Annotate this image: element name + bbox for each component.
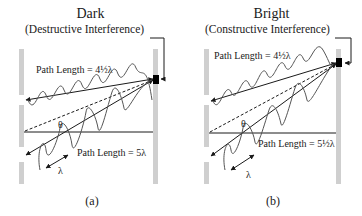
- panel-subtitle: (Destructive Interference): [25, 22, 144, 36]
- panel-dark-destructive: Dark (Destructive Interference) Path Len…: [0, 0, 181, 216]
- panel-title: Dark: [0, 6, 181, 22]
- angle-theta-label: θ: [58, 119, 63, 131]
- detector-point: [336, 58, 342, 67]
- panel-title: Bright: [181, 6, 362, 22]
- screen: [336, 49, 341, 184]
- panel-caption: (b): [253, 194, 293, 209]
- top-path-length-label: Path Length = 4½λ: [214, 50, 291, 62]
- bottom-path-length-label: Path Length = 5λ: [77, 147, 146, 159]
- wavelength-label: λ: [246, 169, 251, 181]
- barrier-middle-segment: [19, 105, 24, 147]
- wavelength-arrow: [46, 155, 68, 168]
- screen: [153, 49, 158, 184]
- barrier-bottom-segment: [204, 162, 209, 184]
- bottom-wave: [224, 64, 333, 170]
- barrier-top-segment: [204, 49, 209, 95]
- panel-subtitle: (Constructive Interference): [205, 22, 330, 36]
- top-ray: [26, 79, 153, 100]
- detector-point: [153, 75, 159, 84]
- bottom-ray: [26, 80, 153, 155]
- wavelength-label: λ: [58, 165, 63, 177]
- top-ray: [211, 63, 336, 101]
- wavelength-arrow: [231, 155, 254, 170]
- panel-bright-constructive: Bright (Constructive Interference) Path …: [181, 0, 362, 216]
- panel-caption: (a): [72, 194, 112, 209]
- barrier-top-segment: [19, 49, 24, 95]
- barrier-middle-segment: [204, 105, 209, 147]
- bottom-path-length-label: Path Length = 5½λ: [258, 138, 335, 150]
- barrier-bottom-segment: [19, 162, 24, 184]
- center-dashed-ray: [25, 80, 153, 131]
- top-path-length-label: Path Length = 4½λ: [36, 64, 113, 76]
- angle-theta-label: θ: [241, 118, 246, 130]
